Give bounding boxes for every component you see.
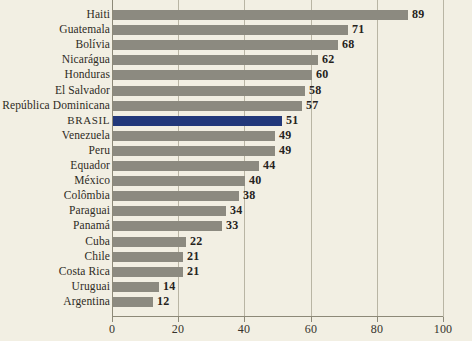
- x-tick-label-60: 60: [305, 322, 317, 337]
- category-label: BRASIL: [67, 114, 110, 129]
- x-tick-label-20: 20: [172, 322, 184, 337]
- value-label: 71: [352, 23, 364, 38]
- value-label: 22: [190, 235, 202, 250]
- bar-row: Equador44: [0, 159, 472, 174]
- bar-row: Colômbia38: [0, 189, 472, 204]
- category-label: República Dominicana: [2, 99, 110, 114]
- bar-row: Nicarágua62: [0, 53, 472, 68]
- bar-row: Chile21: [0, 250, 472, 265]
- x-tick-label-0: 0: [109, 322, 115, 337]
- bar: [113, 40, 338, 50]
- bar-row: Venezuela49: [0, 129, 472, 144]
- value-label: 44: [263, 159, 275, 174]
- category-label: Honduras: [64, 68, 110, 83]
- category-label: Panamá: [73, 219, 110, 234]
- bar-row: Bolívia68: [0, 38, 472, 53]
- category-label: Uruguai: [72, 280, 110, 295]
- value-label: 21: [187, 250, 199, 265]
- bar-row: Panamá33: [0, 219, 472, 234]
- bar: [113, 146, 275, 156]
- value-label: 62: [322, 53, 334, 68]
- value-label: 89: [412, 8, 424, 23]
- value-label: 14: [163, 280, 175, 295]
- bar: [113, 101, 302, 111]
- bar-row: Peru49: [0, 144, 472, 159]
- value-label: 38: [243, 189, 255, 204]
- value-label: 68: [342, 38, 354, 53]
- category-label: Argentina: [63, 295, 110, 310]
- bar: [113, 206, 226, 216]
- bar: [113, 252, 183, 262]
- plot-area: 020406080100Haiti89Guatemala71Bolívia68N…: [0, 0, 472, 341]
- category-label: Paraguai: [69, 204, 110, 219]
- bar: [113, 221, 222, 231]
- x-tick-label-80: 80: [371, 322, 383, 337]
- bar-row: El Salvador58: [0, 84, 472, 99]
- bar: [113, 282, 159, 292]
- category-label: Peru: [89, 144, 110, 159]
- value-label: 57: [306, 99, 318, 114]
- bar-row: Guatemala71: [0, 23, 472, 38]
- value-label: 12: [157, 295, 169, 310]
- value-label: 33: [226, 219, 238, 234]
- category-label: Costa Rica: [59, 265, 110, 280]
- x-axis-line: [112, 316, 443, 317]
- bar: [113, 297, 153, 307]
- value-label: 49: [279, 144, 291, 159]
- bar-row: Haiti89: [0, 8, 472, 23]
- category-label: Venezuela: [62, 129, 110, 144]
- bar-row: BRASIL51: [0, 114, 472, 129]
- bar: [113, 86, 305, 96]
- bar: [113, 116, 282, 126]
- bar-row: Uruguai14: [0, 280, 472, 295]
- bar-row: Paraguai34: [0, 204, 472, 219]
- category-label: Nicarágua: [62, 53, 110, 68]
- value-label: 34: [230, 204, 242, 219]
- category-label: Equador: [70, 159, 110, 174]
- bar-chart: 020406080100Haiti89Guatemala71Bolívia68N…: [0, 0, 472, 341]
- category-label: Haiti: [87, 8, 111, 23]
- bar-row: Costa Rica21: [0, 265, 472, 280]
- x-tick-label-40: 40: [238, 322, 250, 337]
- value-label: 58: [309, 84, 321, 99]
- bar: [113, 191, 239, 201]
- bar-row: Cuba22: [0, 235, 472, 250]
- value-label: 60: [316, 68, 328, 83]
- bar: [113, 25, 348, 35]
- value-label: 51: [286, 114, 298, 129]
- category-label: Guatemala: [59, 23, 110, 38]
- bar: [113, 161, 259, 171]
- category-label: El Salvador: [55, 84, 110, 99]
- category-label: Cuba: [85, 235, 110, 250]
- x-tick-label-100: 100: [434, 322, 453, 337]
- bar: [113, 55, 318, 65]
- bar-row: México40: [0, 174, 472, 189]
- bar: [113, 70, 312, 80]
- value-label: 40: [249, 174, 261, 189]
- bar: [113, 131, 275, 141]
- category-label: Chile: [85, 250, 110, 265]
- category-label: México: [74, 174, 110, 189]
- bar-row: Honduras60: [0, 68, 472, 83]
- bar: [113, 267, 183, 277]
- value-label: 21: [187, 265, 199, 280]
- bar: [113, 10, 408, 20]
- value-label: 49: [279, 129, 291, 144]
- category-label: Colômbia: [64, 189, 110, 204]
- bar: [113, 237, 186, 247]
- category-label: Bolívia: [75, 38, 110, 53]
- bar-row: Argentina12: [0, 295, 472, 310]
- bar-row: República Dominicana57: [0, 99, 472, 114]
- bar: [113, 176, 245, 186]
